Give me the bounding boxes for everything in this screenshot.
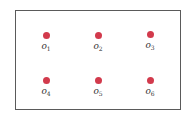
node-o6: o6 <box>140 77 160 101</box>
point-marker-icon <box>147 77 154 84</box>
point-marker-icon <box>43 32 50 39</box>
node-o1: o1 <box>36 32 56 56</box>
node-o3: o3 <box>140 31 160 55</box>
node-index: 3 <box>151 44 155 51</box>
node-index: 6 <box>151 90 155 97</box>
node-label: o6 <box>140 86 160 99</box>
node-label: o1 <box>36 41 56 54</box>
node-o2: o2 <box>88 32 108 56</box>
node-label: o5 <box>88 86 108 99</box>
node-index: 4 <box>47 90 51 97</box>
point-marker-icon <box>43 77 50 84</box>
node-o4: o4 <box>36 77 56 101</box>
node-label: o3 <box>140 40 160 53</box>
point-marker-icon <box>95 77 102 84</box>
point-marker-icon <box>147 31 154 38</box>
node-label: o4 <box>36 86 56 99</box>
point-marker-icon <box>95 32 102 39</box>
node-index: 2 <box>99 45 103 52</box>
node-label: o2 <box>88 41 108 54</box>
node-o5: o5 <box>88 77 108 101</box>
node-index: 5 <box>99 90 103 97</box>
node-index: 1 <box>47 45 51 52</box>
